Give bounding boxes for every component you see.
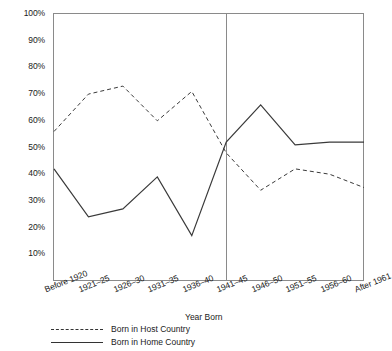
x-tick-label: 1936–40 (181, 273, 215, 294)
x-tick-label: 1926–30 (112, 273, 146, 294)
legend-item: Born in Host Country (47, 322, 307, 335)
legend-line-swatch (47, 324, 105, 334)
x-tick-label: 1941–45 (215, 273, 249, 294)
x-tick-label: 1951–55 (284, 273, 318, 294)
legend-label: Born in Home Country (105, 337, 195, 347)
legend-line-swatch (47, 337, 105, 347)
chart-legend: Born in Host CountryBorn in Home Country (47, 322, 307, 348)
x-tick-label: After 1961 (353, 271, 392, 295)
legend-item: Born in Home Country (47, 335, 307, 348)
x-tick-label: 1956–60 (319, 273, 353, 294)
legend-label: Born in Host Country (105, 324, 190, 334)
x-tick-label: 1931–35 (146, 273, 180, 294)
x-axis-title: Year Born (185, 312, 223, 322)
x-tick-label: 1946–50 (250, 273, 284, 294)
